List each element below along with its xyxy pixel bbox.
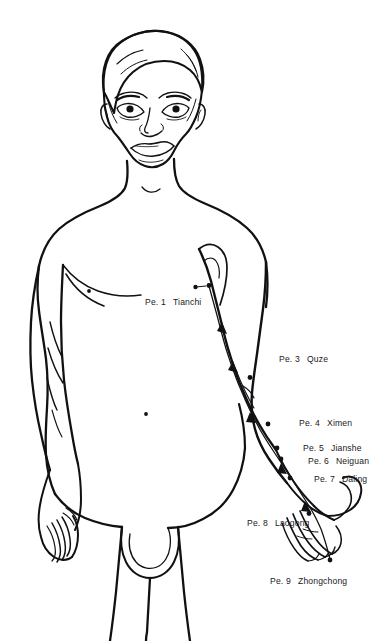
acupoint-dot-ximen[interactable] (266, 422, 271, 427)
body-mark-left-nipple (87, 289, 91, 293)
acupuncture-chart: Pe. 1TianchiPe. 3QuzePe. 4XimenPe. 5Jian… (0, 0, 382, 641)
acupoint-label-neiguan: Pe. 6Neiguan (308, 457, 369, 466)
neck-and-shoulders (39, 159, 266, 266)
chest-contours (63, 265, 141, 306)
acupoint-code: Pe. 4 (299, 419, 320, 428)
acupoint-dot-laogong[interactable] (307, 511, 312, 516)
acupoint-label-tianchi: Pe. 1Tianchi (145, 298, 201, 307)
sternal-notch (142, 187, 160, 192)
acupoint-dot-zhongchong[interactable] (328, 558, 333, 563)
acupoint-code: Pe. 5 (303, 444, 324, 453)
acupoint-name: Tianchi (166, 298, 201, 307)
chin-crease (139, 160, 163, 162)
acupoint-code: Pe. 3 (279, 355, 300, 364)
body-figure-illustration (0, 0, 382, 641)
acupoint-name: Zhongchong (291, 577, 347, 586)
acupoint-code: Pe. 9 (270, 577, 291, 586)
acupoint-name: Neiguan (329, 457, 369, 466)
acupoint-label-jianshe: Pe. 5Jianshe (303, 444, 362, 453)
acupoint-dot-quze[interactable] (248, 375, 253, 380)
acupoint-label-quze: Pe. 3Quze (279, 355, 328, 364)
waist-hip-right (239, 404, 245, 448)
meridian-flow-arrows (217, 322, 311, 512)
acupoint-name: Quze (300, 355, 328, 364)
acupoint-dot-daling[interactable] (288, 476, 293, 481)
acupoint-code: Pe. 8 (247, 519, 268, 528)
eyes (117, 104, 189, 121)
acupoint-label-laogong: Pe. 8Laogong (247, 519, 310, 528)
acupoint-code: Pe. 6 (308, 457, 329, 466)
acupoint-code: Pe. 7 (314, 475, 335, 484)
body-landmark-marks (87, 289, 148, 416)
acupoint-dot-jianshe[interactable] (275, 446, 280, 451)
body-mark-navel (144, 412, 148, 416)
acupoint-name: Jianshe (324, 444, 362, 453)
acupoint-name: Laogong (268, 519, 310, 528)
right-armpit-fold (199, 245, 227, 305)
acupoint-label-zhongchong: Pe. 9Zhongchong (270, 577, 347, 586)
acupoint-label-ximen: Pe. 4Ximen (299, 419, 352, 428)
acupoint-label-daling: Pe. 7Daling (314, 475, 367, 484)
acupoint-name: Daling (335, 475, 367, 484)
right-arm-outline (199, 249, 287, 483)
mouth (131, 142, 174, 156)
acupoint-dot-tianchi[interactable] (207, 283, 212, 288)
acupoint-dot-neiguan[interactable] (279, 457, 284, 462)
eyebrows (115, 92, 191, 100)
acupoint-name: Ximen (320, 419, 352, 428)
groin-detail (121, 527, 179, 578)
acupoint-code: Pe. 1 (145, 298, 166, 307)
pelvis-outline (55, 448, 245, 528)
